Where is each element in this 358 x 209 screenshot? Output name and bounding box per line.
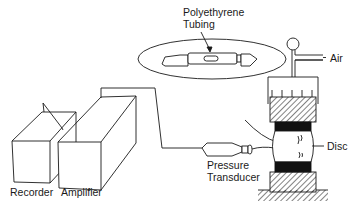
pressure-transducer xyxy=(202,143,252,156)
piston-chamber xyxy=(268,77,318,122)
label-transducer-line1: Pressure xyxy=(207,159,249,171)
base-support xyxy=(258,172,328,201)
upper-endplate xyxy=(275,122,311,131)
polyethylene-tubing-detail xyxy=(162,53,257,66)
label-air: Air xyxy=(330,52,343,64)
apparatus-diagram: Polyethyrene Tubing Air Disc Pressure Tr… xyxy=(0,0,358,209)
amplifier-box xyxy=(58,96,136,190)
intervertebral-disc xyxy=(273,131,325,162)
label-amplifier: Amplifier xyxy=(61,186,102,198)
lower-endplate xyxy=(275,162,311,172)
label-tubing-line2: Tubing xyxy=(183,18,215,30)
diagram-drawing xyxy=(0,0,358,209)
label-disc: Disc xyxy=(327,140,347,152)
label-tubing-line1: Polyethyrene xyxy=(183,6,244,18)
air-inlet xyxy=(287,38,326,77)
label-recorder: Recorder xyxy=(10,186,53,198)
label-transducer-line2: Transducer xyxy=(207,171,260,183)
